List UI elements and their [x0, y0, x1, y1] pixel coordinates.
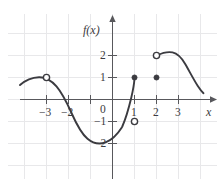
- curve-branch-right: [157, 52, 204, 93]
- open-point-2-2: [153, 52, 159, 58]
- y-axis: [108, 15, 117, 179]
- x-axis: [20, 95, 217, 104]
- x-tick-label-2: 2: [153, 107, 159, 119]
- closed-point-2-1: [154, 75, 159, 80]
- y-axis-label: f(x): [83, 24, 100, 36]
- x-tick-label-neg3: −3: [39, 107, 51, 119]
- x-axis-arrow: [210, 96, 217, 102]
- x-tick-label-1: 1: [131, 107, 137, 119]
- open-point-1-neg1: [131, 118, 137, 124]
- origin-label: 0: [100, 104, 106, 116]
- y-tick-label-neg2: −2: [94, 138, 106, 150]
- function-graph-figure: f(x) x −3 −2 1 2 3 0 2 1 −1 −2: [0, 0, 222, 193]
- x-tick-label-3: 3: [175, 107, 181, 119]
- closed-point-1-1: [132, 75, 137, 80]
- y-tick-label-2: 2: [100, 50, 106, 62]
- graph-canvas: [0, 0, 222, 193]
- x-axis-label: x: [206, 106, 211, 118]
- y-tick-label-1: 1: [100, 72, 106, 84]
- x-tick-label-neg2: −2: [61, 107, 73, 119]
- y-tick-label-neg1: −1: [94, 116, 106, 128]
- open-point-neg3-1: [43, 74, 49, 80]
- y-axis-arrow: [109, 15, 115, 22]
